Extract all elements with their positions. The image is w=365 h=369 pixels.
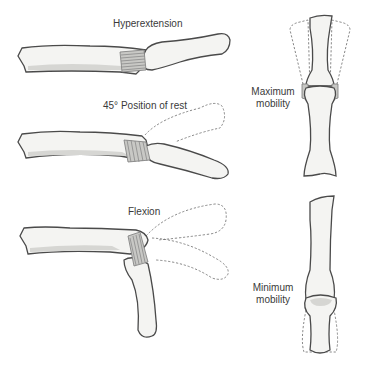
- label-hyperextension: Hyperextension: [113, 18, 182, 30]
- label-min-mobility: Minimum mobility: [250, 282, 296, 306]
- label-min-mobility-line1: Minimum: [250, 282, 296, 294]
- ligament: [124, 140, 150, 162]
- middle-phalanx-bone: [306, 15, 334, 86]
- label-max-mobility-line2: mobility: [250, 98, 296, 110]
- ghost-outline-lower: [152, 238, 228, 279]
- ligament: [120, 50, 146, 72]
- label-flexion: Flexion: [128, 206, 160, 218]
- min-mobility-illustration: [302, 196, 337, 353]
- finger-joint-diagram: [0, 0, 365, 369]
- proximal-phalanx-bone: [304, 86, 336, 176]
- label-max-mobility: Maximum mobility: [250, 86, 296, 110]
- middle-phalanx-bone: [124, 258, 157, 337]
- label-min-mobility-line2: mobility: [250, 294, 296, 306]
- middle-phalanx-bone: [140, 34, 230, 70]
- middle-phalanx-bone: [306, 196, 335, 300]
- flexion-illustration: [20, 204, 228, 337]
- label-rest-position: 45° Position of rest: [103, 100, 187, 112]
- rest-position-illustration: [18, 103, 228, 178]
- middle-phalanx-bone: [146, 143, 228, 178]
- max-mobility-illustration: [290, 15, 350, 176]
- hyperextension-illustration: [18, 34, 230, 74]
- label-max-mobility-line1: Maximum: [250, 86, 296, 98]
